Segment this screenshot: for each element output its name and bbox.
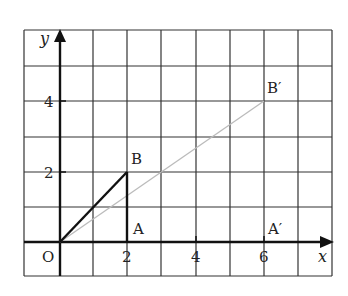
x-axis-label: x <box>318 247 327 266</box>
y-axis-arrow-icon <box>54 29 66 42</box>
x-tick-4: 4 <box>191 248 201 266</box>
point-b-prime-label: B′ <box>267 79 282 97</box>
x-tick-2: 2 <box>122 248 132 266</box>
coordinate-diagram: 2 4 6 2 4 x y O A B A′ B′ <box>0 0 348 296</box>
point-a-label: A <box>132 220 144 238</box>
y-tick-4: 4 <box>44 93 54 111</box>
grid <box>24 30 332 276</box>
point-a-prime-label: A′ <box>267 220 283 238</box>
y-tick-2: 2 <box>44 164 54 182</box>
point-b-label: B <box>131 150 142 168</box>
origin-label: O <box>42 248 54 266</box>
y-axis-label: y <box>39 29 50 48</box>
x-tick-6: 6 <box>259 248 269 266</box>
axes <box>24 40 322 276</box>
